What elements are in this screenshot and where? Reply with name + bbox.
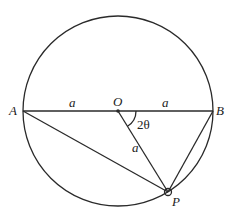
label-p: P (171, 194, 180, 209)
label-a: A (8, 103, 17, 118)
label-op-length: a (132, 140, 139, 155)
chord-bp (168, 111, 213, 192)
circle-geometry-diagram: A O B P a a a 2θ (0, 0, 233, 214)
label-angle: 2θ (137, 117, 150, 132)
label-b: B (216, 103, 224, 118)
label-ob-length: a (162, 95, 169, 110)
angle-arc (128, 111, 137, 126)
label-ao-length: a (69, 95, 76, 110)
centre-point (116, 109, 120, 113)
label-o: O (113, 94, 123, 109)
